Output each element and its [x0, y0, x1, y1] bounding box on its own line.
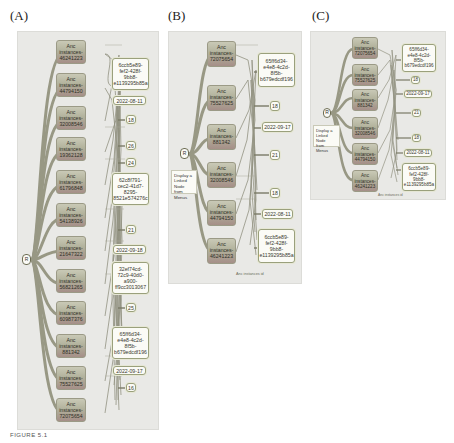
instance-node-c-1[interactable]: Ancinstances-72075654: [352, 37, 378, 59]
axis-label-c: Anc instances id: [378, 193, 403, 197]
instance-id: 46241223: [353, 184, 377, 190]
instance-node-c-4[interactable]: Ancinstances-32008546: [352, 117, 378, 139]
instance-node-c-5[interactable]: Ancinstances-44794150: [352, 143, 378, 165]
instance-node-c-2[interactable]: Ancinstances-75527625: [352, 64, 378, 86]
instance-node-c-6[interactable]: Ancinstances-46241223: [352, 170, 378, 192]
value-node-c-date-2[interactable]: 2022-08-11: [404, 149, 432, 157]
linked-node-legend-c: Display a Linked Node from Menus: [313, 125, 340, 147]
instance-id: 72075654: [353, 51, 377, 57]
instance-id: 881342: [353, 103, 377, 109]
value-node-c-uuid-2[interactable]: 6ccb5e89- fef2-428f- 9bb8- e1139295b85a: [402, 163, 436, 191]
instance-id: 44794150: [353, 157, 377, 163]
instance-id: 75527625: [353, 78, 377, 84]
value-node-c-num-18b[interactable]: 18: [412, 134, 421, 142]
instance-id: 32008546: [353, 131, 377, 137]
value-node-c-uuid-1[interactable]: 65ff6d34- e4e8-4c2d- 8f5b- b679edcdf196: [402, 44, 436, 72]
value-node-c-num-21[interactable]: 21: [412, 109, 421, 117]
figure-caption: FIGURE 5.1: [10, 432, 48, 438]
root-node-c[interactable]: R: [323, 108, 331, 118]
instance-node-c-3[interactable]: Ancinstances-881342: [352, 89, 378, 111]
panel-c-edges: [0, 0, 454, 443]
value-node-c-num-18a[interactable]: 18: [411, 76, 420, 84]
value-node-c-date-1[interactable]: 2022-09-17: [404, 90, 432, 98]
